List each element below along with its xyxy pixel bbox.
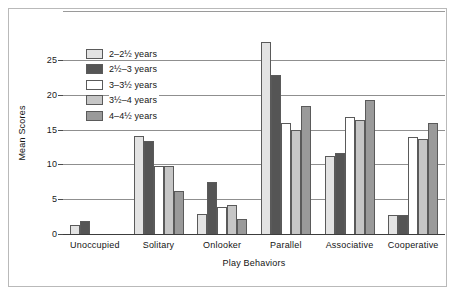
legend-swatch xyxy=(86,111,103,121)
bar xyxy=(408,137,418,234)
x-axis-title: Play Behaviors xyxy=(63,258,445,268)
category-label: Cooperative xyxy=(381,240,445,250)
category-label: Parallel xyxy=(254,240,318,250)
y-tick-label: 10 xyxy=(47,159,57,169)
bar-group xyxy=(254,32,318,234)
bar xyxy=(281,123,291,234)
category-label: Unoccupied xyxy=(63,240,127,250)
bar xyxy=(271,75,281,235)
legend-swatch xyxy=(86,80,103,90)
bar xyxy=(345,117,355,234)
legend-item: 3½–4 years xyxy=(86,95,159,106)
bar xyxy=(365,100,375,234)
legend-swatch xyxy=(86,64,103,74)
bar xyxy=(335,153,345,234)
legend-item: 2½–3 years xyxy=(86,64,159,75)
bar-group xyxy=(381,32,445,234)
legend-label: 3–3½ years xyxy=(109,80,159,90)
category-label: Onlooker xyxy=(190,240,254,250)
bar xyxy=(144,141,154,234)
legend-item: 3–3½ years xyxy=(86,79,159,90)
bar xyxy=(418,139,428,234)
bar xyxy=(134,136,144,234)
bar-group xyxy=(190,32,254,234)
legend: 2–2½ years2½–3 years3–3½ years3½–4 years… xyxy=(86,48,159,121)
bar xyxy=(70,225,80,234)
category-label: Associative xyxy=(318,240,382,250)
x-axis-baseline xyxy=(63,234,445,235)
category-label: Solitary xyxy=(127,240,191,250)
y-tick-label: 25 xyxy=(47,55,57,65)
bar xyxy=(207,182,217,234)
legend-label: 4–4½ years xyxy=(109,111,159,121)
legend-label: 2½–3 years xyxy=(109,64,159,74)
legend-swatch xyxy=(86,49,103,59)
legend-label: 2–2½ years xyxy=(109,49,159,59)
legend-swatch xyxy=(86,95,103,105)
bar xyxy=(217,207,227,234)
bar xyxy=(398,215,408,234)
bar xyxy=(164,166,174,234)
chart-figure: Mean Scores 0510152025 UnoccupiedSolitar… xyxy=(0,0,455,295)
bar xyxy=(80,221,90,234)
top-rule xyxy=(63,11,445,12)
y-tick-label: 20 xyxy=(47,90,57,100)
bar xyxy=(428,123,438,234)
y-tick-label: 5 xyxy=(52,194,57,204)
bar xyxy=(237,219,247,234)
bar xyxy=(291,130,301,234)
legend-item: 2–2½ years xyxy=(86,48,159,59)
bar xyxy=(154,166,164,234)
bar xyxy=(325,156,335,234)
y-tick-label: 0 xyxy=(52,229,57,239)
legend-item: 4–4½ years xyxy=(86,110,159,121)
y-axis-title: Mean Scores xyxy=(17,105,27,160)
bar xyxy=(261,42,271,234)
bar xyxy=(227,205,237,234)
bar xyxy=(355,120,365,234)
bar xyxy=(197,214,207,234)
y-tick-label: 15 xyxy=(47,125,57,135)
bar-group xyxy=(318,32,382,234)
legend-label: 3½–4 years xyxy=(109,95,159,105)
bar xyxy=(301,106,311,234)
bar xyxy=(388,215,398,235)
category-labels: UnoccupiedSolitaryOnlookerParallelAssoci… xyxy=(63,240,445,250)
bar xyxy=(174,191,184,234)
